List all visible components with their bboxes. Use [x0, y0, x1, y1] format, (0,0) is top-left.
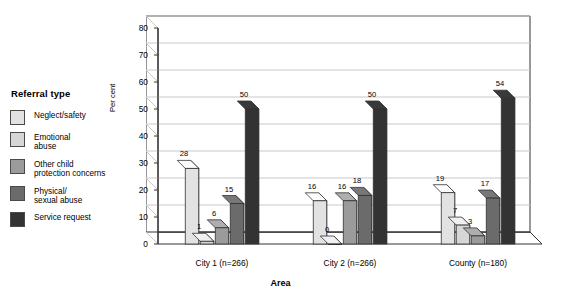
y-axis-label: Per cent [108, 84, 117, 112]
bar-value-label: 7 [442, 206, 468, 215]
plot-svg [146, 6, 554, 256]
bar-value-label: 3 [457, 217, 483, 226]
y-tick-label: 0 [126, 239, 148, 249]
legend-items: Neglect/safetyEmotional abuseOther child… [10, 110, 130, 227]
legend-item: Neglect/safety [10, 110, 130, 125]
y-tick-label: 10 [126, 212, 148, 222]
y-tick-label: 50 [126, 104, 148, 114]
legend-swatch-icon [10, 212, 25, 227]
y-tick-label: 80 [126, 23, 148, 33]
y-tick-label: 60 [126, 77, 148, 87]
x-axis-title: Area [0, 278, 561, 288]
legend-swatch-icon [10, 132, 25, 147]
y-tick-label: 70 [126, 50, 148, 60]
bar-value-label: 50 [231, 90, 257, 99]
legend-item: Physical/ sexual abuse [10, 186, 130, 206]
legend-item: Service request [10, 212, 130, 227]
legend-item-label: Other child protection concerns [34, 159, 105, 179]
bar-value-label: 50 [359, 90, 385, 99]
bar-value-label: 19 [427, 174, 453, 183]
legend-swatch-icon [10, 186, 25, 201]
bar-value-label: 54 [487, 79, 513, 88]
bar-value-label: 15 [216, 185, 242, 194]
y-tick-label: 20 [126, 185, 148, 195]
y-tick-label: 30 [126, 158, 148, 168]
legend-item-label: Emotional abuse [34, 132, 70, 152]
bar-value-label: 17 [472, 179, 498, 188]
bar-value-label: 6 [201, 209, 227, 218]
bar-value-label: 18 [344, 176, 370, 185]
plot-area [146, 6, 554, 256]
x-category-label: City 1 (n=266) [158, 258, 286, 268]
bar-value-label: 0 [314, 225, 340, 234]
legend-item-label: Service request [34, 212, 91, 222]
bar-value-label: 16 [299, 182, 325, 191]
legend-swatch-icon [10, 110, 25, 125]
legend-item-label: Physical/ sexual abuse [34, 186, 82, 206]
y-tick-label: 40 [126, 131, 148, 141]
x-category-label: County (n=180) [414, 258, 542, 268]
x-category-label: City 2 (n=266) [286, 258, 414, 268]
bar-value-label: 28 [171, 149, 197, 158]
legend-swatch-icon [10, 159, 25, 174]
legend-item-label: Neglect/safety [34, 110, 86, 120]
chart-figure: Referral type Neglect/safetyEmotional ab… [0, 0, 561, 297]
bar-value-label: 1 [186, 222, 212, 231]
legend-item: Other child protection concerns [10, 159, 130, 179]
legend-item: Emotional abuse [10, 132, 130, 152]
